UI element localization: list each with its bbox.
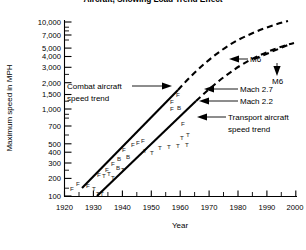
transport-trend-solid [97, 101, 196, 196]
x-label-1950: 1950 [143, 203, 160, 212]
marker-T: T [185, 141, 189, 148]
x-label-1970: 1970 [201, 203, 218, 212]
marker-T: T [180, 134, 184, 141]
y-axis-title: Maximum speed in MPH [5, 64, 14, 151]
chart-canvas: 10,000 7,000 5,000 4,000 3,000 2,000 1,5… [0, 0, 306, 250]
marker-F: F [111, 160, 115, 167]
marker-B: B [126, 153, 130, 160]
marker-F: F [76, 180, 80, 187]
marker-B: B [177, 104, 181, 111]
marker-F: F [105, 166, 109, 173]
marker-F: F [141, 137, 145, 144]
y-label-1500: 1,500 [42, 90, 61, 99]
marker-T: T [186, 131, 190, 138]
y-tick-labels: 10,000 7,000 5,000 4,000 3,000 2,000 1,5… [38, 18, 61, 201]
y-label-7000: 7,000 [42, 31, 61, 40]
y-label-2000: 2,000 [42, 79, 61, 88]
combat-arrow-icon [162, 82, 172, 89]
mach27-label: Mach 2.7 [240, 85, 273, 94]
m6-branch-annotation: M6 [272, 63, 284, 86]
x-label-1940: 1940 [114, 203, 131, 212]
marker-B: B [116, 164, 120, 171]
y-tick-marks [65, 22, 72, 196]
y-label-4000: 4,000 [42, 52, 61, 61]
marker-F: F [131, 141, 135, 148]
combat-label-line2: speed trend [67, 94, 109, 103]
marker-T: T [150, 149, 154, 156]
marker-T: T [176, 142, 180, 149]
y-label-3000: 3,000 [42, 63, 61, 72]
x-label-1990: 1990 [258, 203, 275, 212]
x-label-1920: 1920 [56, 203, 73, 212]
marker-F: F [70, 185, 74, 192]
x-tick-labels: 1920 1930 1940 1950 1960 1970 1980 1990 … [56, 203, 303, 212]
chart-figure: Aircraft, Showing Load Trend Effect [0, 0, 306, 250]
x-label-2000: 2000 [287, 203, 304, 212]
y-label-200: 200 [48, 174, 61, 183]
y-label-100: 100 [48, 192, 61, 201]
x-label-1980: 1980 [230, 203, 247, 212]
marker-F: F [170, 105, 174, 112]
m6-branch-arrow-icon [273, 66, 280, 76]
y-label-400: 400 [48, 148, 61, 157]
marker-B: B [117, 155, 121, 162]
x-axis-title: Year [172, 221, 189, 230]
m6-branch-label: M6 [272, 77, 284, 86]
combat-trend-solid [82, 90, 178, 188]
marker-T: T [158, 144, 162, 151]
mach22-annotation: Mach 2.2 [199, 97, 273, 106]
marker-T: T [167, 143, 171, 150]
mach22-arrow-icon [199, 97, 209, 104]
mach27-annotation: Mach 2.7 [204, 85, 273, 94]
combat-annotation: Combat aircraft speed trend [67, 82, 172, 103]
transport-label-line1: Transport aircraft [228, 113, 289, 122]
y-label-10000: 10,000 [38, 18, 61, 27]
combat-label-line1: Combat aircraft [67, 82, 122, 91]
y-label-1000: 1,000 [42, 105, 61, 114]
x-label-1930: 1930 [85, 203, 102, 212]
transport-arrow-icon [197, 113, 207, 120]
marker-F: F [181, 120, 185, 127]
y-label-700: 700 [48, 122, 61, 131]
transport-annotation: Transport aircraft speed trend [197, 113, 289, 134]
transport-label-line2: speed trend [228, 125, 270, 134]
marker-T: T [102, 172, 106, 179]
m6-upper-arrow-icon [229, 55, 239, 62]
x-label-1960: 1960 [172, 203, 189, 212]
m6-upper-label: M6 [250, 55, 262, 64]
y-label-300: 300 [48, 159, 61, 168]
marker-F: F [136, 139, 140, 146]
mach22-label: Mach 2.2 [240, 97, 273, 106]
